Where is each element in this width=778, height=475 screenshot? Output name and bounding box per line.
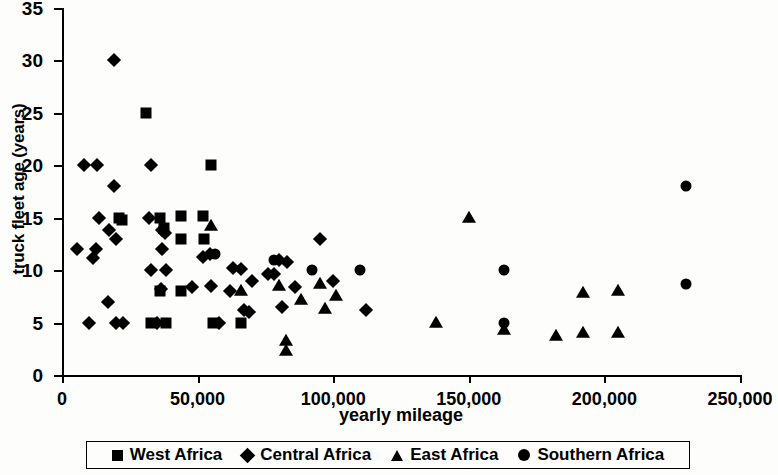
y-tick-label: 20 [22, 155, 43, 177]
y-tick: 15 [54, 218, 62, 220]
data-point [549, 329, 563, 341]
x-tick [740, 375, 742, 383]
data-point [611, 284, 625, 296]
data-point [359, 303, 373, 317]
data-point [313, 277, 327, 289]
data-point [116, 214, 127, 225]
y-tick: 35 [54, 8, 62, 10]
data-point [680, 181, 691, 192]
data-point [206, 160, 217, 171]
chart-page: truck fleet age (years) 05101520253035 0… [0, 0, 778, 475]
data-point [210, 249, 221, 260]
triangle-marker-icon [391, 450, 403, 461]
data-point [199, 233, 210, 244]
data-point [294, 292, 308, 304]
data-point [326, 274, 340, 288]
x-tick [604, 375, 606, 383]
y-tick-label: 25 [22, 103, 43, 125]
x-tick [198, 375, 200, 383]
chart-legend: West AfricaCentral AfricaEast AfricaSout… [86, 441, 690, 469]
legend-item: Central Africa [242, 445, 371, 465]
x-tick [333, 375, 335, 383]
data-point [106, 179, 120, 193]
y-tick-label: 10 [22, 260, 43, 282]
legend-item-label: East Africa [410, 445, 498, 465]
plot-area: 05101520253035 050,000100,000150,000200,… [62, 8, 740, 377]
data-point [313, 232, 327, 246]
y-tick: 5 [54, 323, 62, 325]
x-axis-title: yearly mileage [62, 405, 740, 426]
data-point [268, 254, 279, 265]
circle-marker-icon [518, 449, 530, 461]
y-axis-line [62, 8, 64, 377]
y-tick-label: 5 [32, 313, 43, 335]
data-point [576, 286, 590, 298]
data-point [429, 315, 443, 327]
data-point [272, 279, 286, 291]
y-tick-label: 30 [22, 50, 43, 72]
data-point [275, 300, 289, 314]
data-point [176, 210, 187, 221]
data-point [499, 265, 510, 276]
data-point [144, 263, 158, 277]
y-tick: 0 [54, 375, 62, 377]
data-point [106, 53, 120, 67]
data-point [355, 265, 366, 276]
y-tick-label: 15 [22, 208, 43, 230]
data-point [204, 279, 218, 293]
legend-item-label: Central Africa [260, 445, 371, 465]
data-point [141, 107, 152, 118]
data-point [680, 278, 691, 289]
legend-item: East Africa [391, 445, 498, 465]
data-point [234, 284, 248, 296]
legend-item-label: Southern Africa [537, 445, 664, 465]
data-point [279, 344, 293, 356]
diamond-marker-icon [240, 447, 256, 463]
y-tick: 10 [54, 270, 62, 272]
data-point [576, 326, 590, 338]
data-point [204, 219, 218, 231]
data-point [462, 211, 476, 223]
data-point [144, 158, 158, 172]
y-tick: 30 [54, 60, 62, 62]
legend-item: West Africa [112, 445, 223, 465]
square-marker-icon [112, 450, 123, 461]
x-tick [62, 375, 64, 383]
data-point [101, 295, 115, 309]
data-point [77, 158, 91, 172]
data-point [235, 317, 246, 328]
data-point [611, 326, 625, 338]
data-point [306, 265, 317, 276]
data-point [70, 242, 84, 256]
data-point [499, 317, 510, 328]
data-point [90, 158, 104, 172]
data-point [318, 302, 332, 314]
data-point [176, 233, 187, 244]
y-tick: 20 [54, 165, 62, 167]
data-point [155, 242, 169, 256]
data-point [82, 315, 96, 329]
x-tick [469, 375, 471, 383]
data-point [92, 211, 106, 225]
data-point [159, 263, 173, 277]
x-axis-line [62, 375, 740, 377]
y-tick: 25 [54, 113, 62, 115]
y-tick-label: 35 [22, 0, 43, 20]
data-point [329, 289, 343, 301]
legend-item-label: West Africa [130, 445, 223, 465]
legend-item: Southern Africa [518, 445, 664, 465]
y-tick-label: 0 [32, 365, 43, 387]
data-point [185, 280, 199, 294]
y-axis-title-text: truck fleet age (years) [9, 103, 29, 274]
